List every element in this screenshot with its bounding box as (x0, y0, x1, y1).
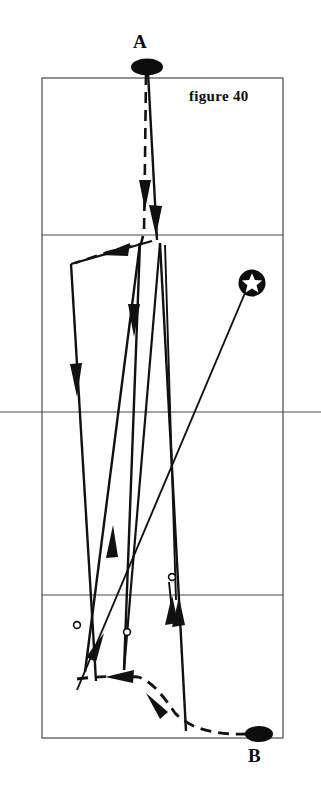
solid-seg-narrow-down-b (165, 245, 176, 600)
solid-track-group (71, 72, 245, 731)
point-a-marker (131, 59, 163, 76)
waypoint-circle-1 (74, 622, 81, 629)
diagram-canvas (0, 0, 321, 800)
solid-seg-to-star (77, 293, 245, 690)
figure-40-diagram: A B figure 40 (0, 0, 321, 800)
dashed-path-to-b (77, 676, 247, 734)
star-marker (239, 270, 266, 297)
waypoint-circle-2 (124, 629, 131, 636)
point-a-label: A (133, 31, 147, 53)
figure-caption: figure 40 (189, 88, 249, 105)
point-b-label: B (248, 745, 261, 767)
grid-group (0, 78, 321, 738)
waypoint-circle-3 (169, 574, 176, 581)
point-b-marker (245, 726, 273, 742)
arrow-down-left-branch (70, 363, 82, 397)
arrow-left-dashed (100, 243, 130, 256)
dashed-return-group (77, 676, 247, 734)
arrow-left-bottom-dashed (105, 670, 134, 683)
field-boundary (42, 78, 283, 738)
arrow-up-lower-left (106, 525, 118, 558)
arrow-down-solid-upper (149, 205, 162, 236)
